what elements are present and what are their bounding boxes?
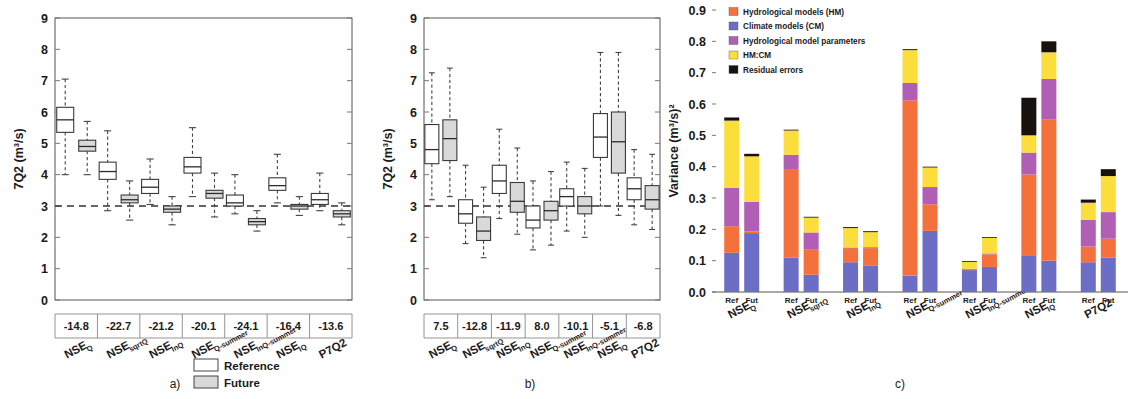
panel_b-svg: 01234567897Q2 (m³/s)7.5-12.8-11.98.0-10.…: [382, 0, 682, 399]
bar-segment: [804, 275, 819, 292]
boxplot-future: [121, 181, 138, 220]
box: [269, 178, 286, 191]
box: [425, 125, 439, 164]
metric-value: -21.2: [149, 320, 174, 332]
bar-segment: [784, 170, 799, 258]
boxplot-future: [206, 173, 223, 217]
x-category-base: NSE: [105, 339, 132, 361]
box: [526, 206, 540, 228]
stacked-bar: [962, 261, 977, 292]
bar-segment: [982, 237, 997, 238]
box: [578, 197, 592, 214]
stacked-bar: [804, 217, 819, 292]
box: [121, 195, 138, 203]
bar-segment: [744, 202, 759, 232]
bar-segment: [962, 269, 977, 270]
panel-c-legend: Hydrological models (HM)Climate models (…: [729, 8, 866, 75]
bar-segment: [1081, 203, 1096, 220]
bar-segment: [982, 238, 997, 254]
boxplot-reference: [459, 165, 473, 243]
box: [645, 186, 659, 210]
metric-value: 8.0: [534, 320, 549, 332]
boxplot-reference: [57, 79, 74, 175]
metric-value: -20.1: [191, 320, 216, 332]
metric-value: -6.8: [634, 320, 653, 332]
y-tick-label: 0.2: [689, 223, 706, 237]
legend-swatch: [729, 8, 738, 16]
boxplot-reference: [593, 52, 607, 206]
y-tick-label: 0.0: [689, 286, 706, 300]
y-tick-label: 0.6: [689, 98, 706, 112]
bar-segment: [1041, 79, 1056, 120]
bar-segment: [843, 262, 858, 292]
bar-segment: [1081, 247, 1096, 263]
boxplot-reference: [492, 129, 506, 218]
bar-segment: [804, 217, 819, 232]
bar-segment: [962, 262, 977, 269]
legend-swatch: [729, 22, 738, 30]
bar-segment: [724, 188, 739, 226]
bar-segment: [923, 204, 938, 231]
y-tick-label: 6: [410, 106, 417, 120]
boxplot-future: [443, 68, 457, 196]
box: [291, 204, 308, 209]
bar-segment: [804, 232, 819, 249]
boxplot-reference: [560, 162, 574, 231]
bar-segment: [744, 154, 759, 157]
bar-segment: [1021, 153, 1036, 175]
bar-segment: [724, 253, 739, 292]
bar-segment: [1041, 52, 1056, 79]
metric-value: -12.8: [462, 320, 487, 332]
bar-segment: [903, 50, 918, 83]
bar-segment: [923, 167, 938, 187]
bar-segment: [843, 228, 858, 247]
y-tick-label: 0.3: [689, 192, 706, 206]
bar-segment: [804, 250, 819, 275]
box: [593, 114, 607, 158]
y-tick-label: 4: [410, 168, 417, 182]
bar-segment: [1041, 261, 1056, 292]
stacked-bar: [982, 237, 997, 292]
boxplot-reference: [627, 150, 641, 225]
bar-segment: [923, 187, 938, 204]
y-axis-title: 7Q2 (m³/s): [12, 128, 26, 189]
bar-segment: [1041, 120, 1056, 261]
bar-segment: [903, 276, 918, 292]
bar-segment: [863, 248, 878, 265]
y-tick-label: 9: [41, 12, 48, 26]
y-tick-label: 2: [41, 231, 48, 245]
box: [492, 165, 506, 193]
bar-segment: [1101, 258, 1116, 292]
stacked-bar: [903, 49, 918, 292]
panel-c-variance-bars: 0.00.10.20.30.40.50.60.70.80.9Variance (…: [660, 0, 1132, 399]
box: [477, 217, 491, 241]
legend-swatch: [729, 37, 738, 45]
bar-segment: [1021, 256, 1036, 292]
boxplot-future: [164, 197, 181, 225]
x-category-label: P7Q2: [629, 336, 661, 360]
y-tick-label: 1: [41, 262, 48, 276]
box: [510, 183, 524, 213]
metric-value: -14.8: [64, 320, 89, 332]
bar-segment: [962, 270, 977, 292]
stacked-bar: [744, 154, 759, 292]
y-tick-label: 4: [41, 168, 48, 182]
box: [459, 200, 473, 224]
bar-segment: [843, 248, 858, 249]
box: [142, 179, 159, 193]
panel-b-boxplot: 01234567897Q2 (m³/s)7.5-12.8-11.98.0-10.…: [382, 0, 682, 399]
boxplot-future: [544, 172, 558, 246]
legend-label: HM:CM: [743, 51, 771, 60]
box: [206, 190, 223, 198]
boxplot-reference: [269, 154, 286, 203]
boxplot-future: [291, 197, 308, 216]
x-category-subscript: Q: [85, 343, 95, 354]
y-tick-label: 3: [410, 200, 417, 214]
panel-a-boxplot: 01234567897Q2 (m³/s)-14.8-22.7-21.2-20.1…: [0, 0, 382, 399]
boxplot-reference: [99, 131, 116, 211]
y-axis-title: 7Q2 (m³/s): [382, 128, 395, 189]
bar-segment: [863, 265, 878, 292]
metric-value: -13.6: [318, 320, 343, 332]
bar-segment: [1021, 175, 1036, 256]
y-tick-label: 9: [410, 12, 417, 26]
